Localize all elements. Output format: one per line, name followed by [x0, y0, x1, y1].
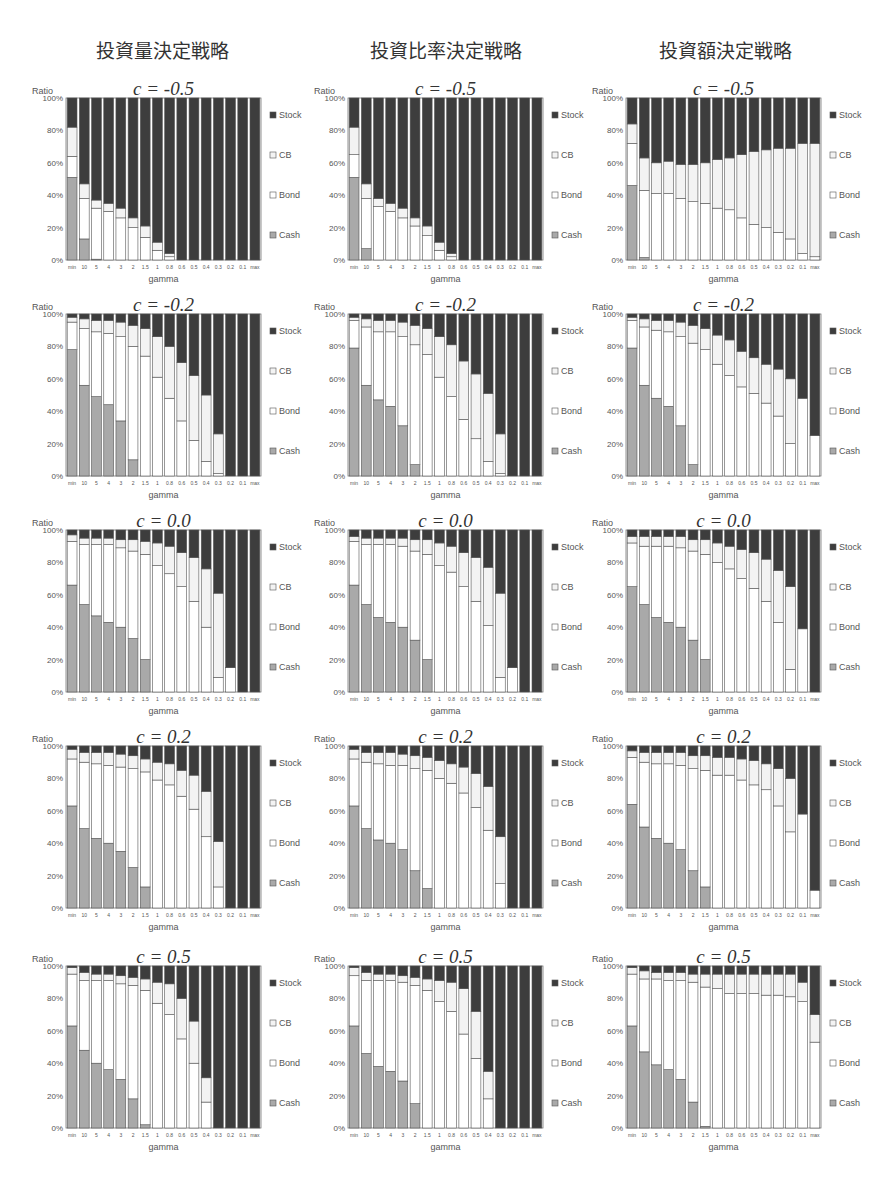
bar-segment-bond: [773, 416, 783, 476]
bar-segment-bond: [786, 669, 796, 692]
legend-swatch-cb: [552, 800, 558, 806]
bar-segment-bond: [435, 566, 445, 692]
x-tick-label: 3: [119, 480, 122, 486]
bar-segment-stock: [532, 966, 542, 1128]
x-tick-label: 0.6: [178, 912, 185, 918]
x-tick-label: 0.2: [227, 696, 234, 702]
bar-segment-cash: [676, 426, 686, 476]
bar-segment-bond: [725, 210, 735, 260]
bar-segment-stock: [189, 314, 199, 376]
legend-label-cash: Cash: [279, 878, 300, 888]
bar-segment-stock: [810, 966, 820, 1015]
bar-segment-cb: [627, 124, 637, 143]
bar-segment-stock: [398, 530, 408, 538]
bar-segment-cash: [676, 1079, 686, 1128]
legend-label-bond: Bond: [279, 622, 300, 632]
bar-segment-stock: [761, 966, 771, 974]
bar-segment-bond: [189, 809, 199, 908]
y-tick-label: 0%: [333, 472, 345, 481]
x-tick-label: 1.5: [142, 696, 149, 702]
bar-segment-bond: [471, 601, 481, 692]
column-title-2: 投資比率決定戦略: [346, 36, 546, 63]
y-tick-label: 40%: [47, 839, 63, 848]
y-tick-label: 80%: [329, 342, 345, 351]
x-tick-label: 5: [377, 696, 380, 702]
bar-segment-cb: [810, 1015, 820, 1043]
bar-segment-bond: [422, 990, 432, 1128]
bar-segment-cb: [676, 536, 686, 547]
bar-segment-stock: [374, 98, 384, 198]
bar-segment-stock: [508, 530, 518, 668]
y-tick-label: 20%: [329, 1092, 345, 1101]
bar-segment-bond: [213, 677, 223, 692]
bar-segment-cb: [386, 752, 396, 765]
bar-segment-stock: [165, 530, 175, 546]
bar-segment-cash: [374, 1066, 384, 1128]
bar-segment-cb: [104, 203, 114, 211]
x-tick-label: 0.3: [497, 1132, 504, 1138]
x-tick-label: 1: [156, 912, 159, 918]
legend-label-stock: Stock: [839, 758, 862, 768]
x-tick-label: 3: [401, 912, 404, 918]
chart-panel: c = 0.2Ratio0%20%40%60%80%100%min1054321…: [30, 730, 320, 940]
bar-segment-cash: [386, 622, 396, 692]
bar-segment-bond: [435, 250, 445, 260]
bar-segment-cb: [386, 320, 396, 331]
bar-segment-bond: [688, 551, 698, 640]
bar-segment-stock: [786, 530, 796, 587]
bar-segment-cb: [459, 989, 469, 1034]
bar-segment-stock: [238, 966, 248, 1128]
bar-segment-bond: [627, 757, 637, 804]
bar-segment-bond: [713, 989, 723, 1128]
x-tick-label: 0.1: [239, 696, 246, 702]
bar-segment-stock: [676, 530, 686, 536]
bar-segment-bond: [422, 770, 432, 888]
x-tick-label: max: [532, 696, 542, 702]
bar-segment-bond: [92, 764, 102, 839]
bar-segment-cb: [471, 774, 481, 808]
bar-segment-cb: [773, 974, 783, 995]
bar-segment-stock: [495, 530, 505, 593]
legend-swatch-cb: [270, 800, 276, 806]
chart-title: c = -0.2: [415, 294, 476, 315]
bar-segment-cb: [361, 972, 371, 980]
bar-segment-stock: [676, 98, 686, 164]
bar-segment-cb: [213, 434, 223, 474]
y-tick-label: 60%: [329, 159, 345, 168]
x-tick-label: 3: [401, 696, 404, 702]
bar-segment-stock: [116, 746, 126, 754]
bar-segment-cb: [725, 340, 735, 376]
bar-segment-stock: [459, 98, 469, 260]
legend-label-cash: Cash: [561, 662, 582, 672]
x-tick-label: 0.2: [227, 1132, 234, 1138]
x-tick-label: max: [810, 696, 820, 702]
bar-segment-stock: [713, 530, 723, 543]
bar-segment-cash: [79, 605, 89, 692]
bar-segment-cb: [676, 972, 686, 980]
bar-segment-stock: [495, 98, 505, 260]
bar-segment-stock: [349, 98, 359, 127]
bar-segment-stock: [374, 530, 384, 538]
bar-segment-bond: [116, 984, 126, 1080]
x-tick-label: 2: [692, 1132, 695, 1138]
bar-segment-cb: [483, 567, 493, 625]
bar-segment-bond: [153, 566, 163, 692]
y-tick-label: 40%: [329, 191, 345, 200]
y-tick-label: 60%: [329, 591, 345, 600]
bar-segment-cb: [165, 984, 175, 1015]
bar-segment-stock: [508, 98, 518, 260]
legend-label-cash: Cash: [839, 878, 860, 888]
chart-title: c = 0.0: [696, 510, 751, 531]
bar-segment-stock: [153, 966, 163, 982]
bar-segment-stock: [520, 314, 530, 476]
y-tick-label: 100%: [43, 310, 63, 319]
bar-segment-cb: [92, 200, 102, 208]
bar-segment-bond: [786, 832, 796, 908]
bar-segment-stock: [79, 98, 89, 184]
chart-panel: c = 0.5Ratio0%20%40%60%80%100%min1054321…: [312, 950, 602, 1160]
bar-segment-stock: [177, 966, 187, 998]
chart-title: c = 0.0: [418, 510, 473, 531]
bar-segment-bond: [664, 981, 674, 1070]
bar-segment-cash: [652, 1065, 662, 1128]
bar-segment-cash: [104, 405, 114, 476]
